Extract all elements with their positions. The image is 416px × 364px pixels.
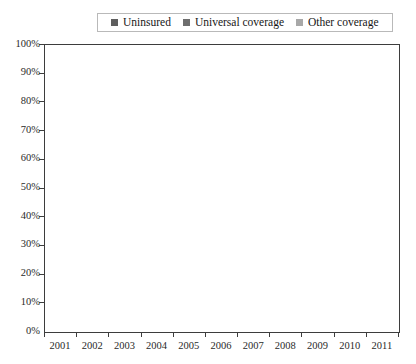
bar-segment bbox=[208, 44, 233, 107]
x-axis-tick-mark bbox=[334, 332, 335, 337]
y-axis-tick-label: 30% bbox=[0, 239, 40, 250]
legend-swatch-icon bbox=[183, 19, 190, 26]
x-axis-tick-mark bbox=[398, 332, 399, 337]
bar-segment bbox=[208, 314, 233, 331]
bar-column bbox=[369, 44, 394, 331]
x-axis-tick-label: 2009 bbox=[301, 340, 333, 351]
y-axis-tick-label: 90% bbox=[0, 67, 40, 78]
y-axis-tick-mark bbox=[39, 159, 44, 160]
bar-segment bbox=[208, 107, 233, 314]
y-axis-tick-label: 70% bbox=[0, 125, 40, 136]
y-axis-tick-mark bbox=[39, 245, 44, 246]
bar-segment bbox=[176, 44, 201, 109]
x-axis-tick-label: 2006 bbox=[205, 340, 237, 351]
stacked-bar-chart: UninsuredUniversal coverageOther coverag… bbox=[0, 0, 416, 364]
legend-entry: Universal coverage bbox=[183, 17, 284, 29]
y-axis-tick-mark bbox=[39, 73, 44, 74]
bar-segment bbox=[112, 101, 137, 316]
y-axis-tick-mark bbox=[39, 274, 44, 275]
legend-entry: Uninsured bbox=[111, 17, 171, 29]
bar-segment bbox=[144, 44, 169, 101]
y-axis-tick-label: 50% bbox=[0, 182, 40, 193]
x-axis-tick-label: 2007 bbox=[237, 340, 269, 351]
bar-segment bbox=[176, 317, 201, 331]
bar-column bbox=[144, 44, 169, 331]
bar-segment bbox=[80, 44, 105, 80]
bar-column bbox=[48, 44, 73, 331]
bar-segment bbox=[305, 44, 330, 110]
x-axis-tick-mark bbox=[108, 332, 109, 337]
x-axis-tick-mark bbox=[173, 332, 174, 337]
y-axis-tick-mark bbox=[39, 101, 44, 102]
bar-column bbox=[241, 44, 266, 331]
y-axis-tick-label: 0% bbox=[0, 326, 40, 337]
legend-label: Universal coverage bbox=[195, 17, 284, 29]
y-axis-tick-mark bbox=[39, 302, 44, 303]
bar-segment bbox=[112, 317, 137, 331]
x-axis-tick-label: 2008 bbox=[269, 340, 301, 351]
y-axis-tick-label: 60% bbox=[0, 153, 40, 164]
bar-segment bbox=[48, 44, 73, 248]
x-axis-tick-mark bbox=[205, 332, 206, 337]
legend-swatch-icon bbox=[296, 19, 303, 26]
bar-column bbox=[305, 44, 330, 331]
y-axis-tick-label: 40% bbox=[0, 211, 40, 222]
x-axis-tick-label: 2004 bbox=[141, 340, 173, 351]
chart-legend: UninsuredUniversal coverageOther coverag… bbox=[97, 13, 393, 32]
y-axis-tick-mark bbox=[39, 188, 44, 189]
bar-column bbox=[112, 44, 137, 331]
y-axis-tick-label: 20% bbox=[0, 268, 40, 279]
x-axis-tick-label: 2001 bbox=[44, 340, 76, 351]
bar-segment bbox=[48, 248, 73, 331]
x-axis-tick-mark bbox=[301, 332, 302, 337]
bar-segment bbox=[241, 110, 266, 317]
bar-column bbox=[208, 44, 233, 331]
bar-segment bbox=[241, 317, 266, 331]
x-axis-tick-mark bbox=[269, 332, 270, 337]
y-axis-tick-mark bbox=[39, 130, 44, 131]
x-axis-tick-mark bbox=[141, 332, 142, 337]
bar-column bbox=[80, 44, 105, 331]
bar-segment bbox=[80, 294, 105, 331]
bar-segment bbox=[144, 101, 169, 316]
legend-swatch-icon bbox=[111, 19, 118, 26]
x-axis-tick-label: 2005 bbox=[173, 340, 205, 351]
bar-segment bbox=[112, 44, 137, 101]
bar-segment bbox=[305, 110, 330, 331]
x-axis-tick-mark bbox=[76, 332, 77, 337]
y-axis-tick-label: 10% bbox=[0, 297, 40, 308]
x-axis-tick-label: 2003 bbox=[108, 340, 140, 351]
bar-segment bbox=[369, 110, 394, 331]
x-axis-tick-mark bbox=[44, 332, 45, 337]
bar-segment bbox=[241, 44, 266, 110]
legend-entry: Other coverage bbox=[296, 17, 379, 29]
y-axis-tick-mark bbox=[39, 44, 44, 45]
bar-segment bbox=[176, 109, 201, 317]
x-axis-tick-label: 2002 bbox=[76, 340, 108, 351]
legend-label: Other coverage bbox=[308, 17, 379, 29]
y-axis-tick-label: 100% bbox=[0, 39, 40, 50]
y-axis-tick-mark bbox=[39, 216, 44, 217]
x-axis-tick-mark bbox=[366, 332, 367, 337]
x-axis-tick-label: 2010 bbox=[334, 340, 366, 351]
y-axis-tick-label: 80% bbox=[0, 96, 40, 107]
bar-segment bbox=[80, 80, 105, 294]
x-axis-tick-mark bbox=[237, 332, 238, 337]
bar-segment bbox=[144, 317, 169, 331]
x-axis-tick-label: 2011 bbox=[366, 340, 398, 351]
bar-column bbox=[176, 44, 201, 331]
legend-label: Uninsured bbox=[123, 17, 171, 29]
bar-segment bbox=[369, 44, 394, 110]
